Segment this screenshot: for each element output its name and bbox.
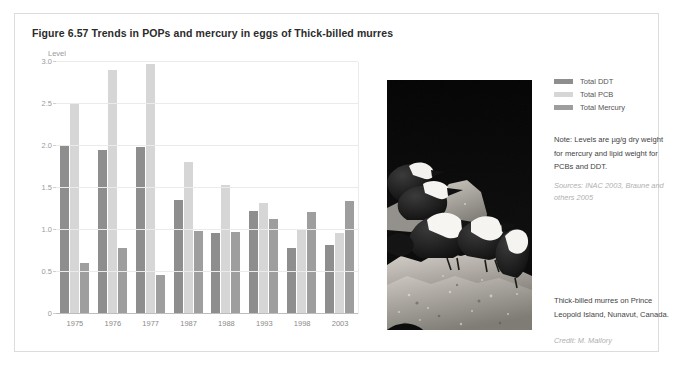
y-axis-tick-label: 1.0	[42, 225, 52, 234]
legend-item: Total DDT	[554, 75, 625, 88]
figure-page: Figure 6.57 Trends in POPs and mercury i…	[0, 0, 674, 366]
x-axis-labels: 19751976197719871988199319982003	[56, 319, 359, 328]
bar-group	[136, 62, 165, 314]
x-axis-tick-label: 1987	[170, 319, 208, 328]
photo-image	[387, 80, 532, 330]
bar	[259, 203, 268, 314]
y-axis-tickmark	[53, 271, 56, 272]
bar	[335, 233, 344, 314]
bar	[98, 150, 107, 314]
bar-chart: Level 00.51.01.52.02.53.0 19751976197719…	[32, 49, 362, 339]
gridline: 2.0	[56, 145, 358, 146]
bar	[345, 201, 354, 314]
bar	[249, 211, 258, 314]
gridline: 3.0	[56, 61, 358, 62]
photo-credit: Credit: M. Mallory	[554, 335, 672, 347]
bar	[297, 230, 306, 314]
bar	[118, 248, 127, 314]
chart-legend: Total DDTTotal PCBTotal Mercury	[554, 75, 625, 114]
bar	[231, 232, 240, 314]
x-axis-tick-label: 1988	[208, 319, 246, 328]
x-axis-tick-label: 1975	[56, 319, 94, 328]
legend-item: Total Mercury	[554, 101, 625, 114]
y-axis-tick-label: 0.5	[42, 267, 52, 276]
legend-label: Total DDT	[580, 77, 613, 86]
y-axis-tickmark	[53, 229, 56, 230]
plot-area: 00.51.01.52.02.53.0	[56, 62, 359, 314]
sources-text: Sources: INAC 2003, Braune and others 20…	[554, 180, 672, 204]
legend-label: Total PCB	[580, 90, 613, 99]
bar	[146, 64, 155, 314]
bar	[325, 245, 334, 314]
photo-caption: Thick-billed murres on Prince Leopold Is…	[554, 294, 674, 321]
bar-group	[249, 62, 278, 314]
x-axis-tick-label: 1998	[283, 319, 321, 328]
note-text: Note: Levels are µg/g dry weight for mer…	[554, 133, 672, 174]
bar-group	[211, 62, 240, 314]
bar-group	[98, 62, 127, 314]
y-axis-tickmark	[53, 61, 56, 62]
y-axis-tick-label: 2.0	[42, 141, 52, 150]
bar	[70, 104, 79, 314]
y-axis-tick-label: 1.5	[42, 183, 52, 192]
bar	[156, 275, 165, 314]
x-axis-tick-label: 1977	[132, 319, 170, 328]
legend-swatch	[554, 92, 573, 97]
legend-label: Total Mercury	[580, 103, 625, 112]
legend-swatch	[554, 105, 573, 110]
y-axis-tick-label: 0	[48, 309, 52, 318]
bar-group	[174, 62, 203, 314]
bar	[136, 147, 145, 314]
bar-group	[60, 62, 89, 314]
bar	[194, 231, 203, 314]
gridline: 0.5	[56, 271, 358, 272]
gridline: 1.0	[56, 229, 358, 230]
bar	[184, 162, 193, 314]
bar-groups	[56, 62, 358, 314]
bar	[269, 219, 278, 314]
y-axis-tickmark	[53, 187, 56, 188]
gridline: 1.5	[56, 187, 358, 188]
bar	[221, 185, 230, 314]
bar-group	[287, 62, 316, 314]
gridline: 0	[56, 313, 358, 314]
y-axis-tickmark	[53, 313, 56, 314]
bar	[287, 248, 296, 314]
figure-card: Figure 6.57 Trends in POPs and mercury i…	[14, 13, 659, 352]
legend-swatch	[554, 79, 573, 84]
gridline: 2.5	[56, 103, 358, 104]
bar	[174, 200, 183, 314]
legend-item: Total PCB	[554, 88, 625, 101]
y-axis-tick-label: 2.5	[42, 99, 52, 108]
x-axis-tick-label: 1993	[245, 319, 283, 328]
bar	[108, 70, 117, 314]
photo-thick-billed-murres	[387, 80, 532, 330]
y-axis-tickmark	[53, 145, 56, 146]
x-axis-tick-label: 1976	[94, 319, 132, 328]
y-axis-tickmark	[53, 103, 56, 104]
y-axis-tick-label: 3.0	[42, 57, 52, 66]
bar	[307, 212, 316, 314]
x-axis-tick-label: 2003	[321, 319, 359, 328]
bar	[211, 233, 220, 314]
bar-group	[325, 62, 354, 314]
figure-title: Figure 6.57 Trends in POPs and mercury i…	[32, 27, 393, 39]
